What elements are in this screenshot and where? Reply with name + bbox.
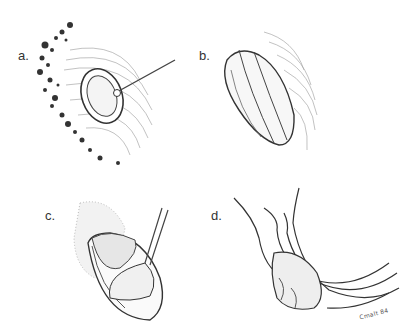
panel-c-drawing bbox=[0, 168, 209, 336]
panel-a-drawing bbox=[0, 0, 209, 168]
panel-b-drawing bbox=[209, 0, 418, 168]
panel-c: c. bbox=[0, 168, 209, 336]
panel-b: b. bbox=[209, 0, 418, 168]
panel-a: a. bbox=[0, 0, 209, 168]
panel-d: d. Cmalt 84 bbox=[209, 168, 418, 336]
